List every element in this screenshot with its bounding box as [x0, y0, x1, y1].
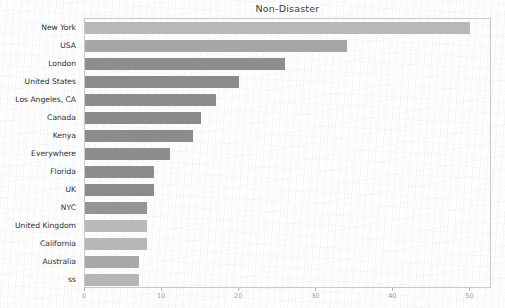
bar-row	[85, 274, 492, 286]
y-axis-tick-label: Canada	[47, 113, 76, 122]
x-axis-tick-mark	[161, 288, 162, 291]
bar-row	[85, 130, 492, 142]
bar	[85, 256, 139, 268]
bar-row	[85, 58, 492, 70]
y-axis-tick-label: London	[48, 59, 76, 68]
y-axis-tick-label: UK	[65, 185, 76, 194]
y-axis-tick-label: USA	[60, 41, 76, 50]
bar	[85, 238, 147, 250]
bar	[85, 184, 154, 196]
y-axis-tick-label: NYC	[61, 203, 76, 212]
y-axis-tick-label: ss	[68, 275, 76, 284]
bar-row	[85, 22, 492, 34]
y-axis-tick-label: Australia	[42, 257, 76, 266]
bar-row	[85, 184, 492, 196]
x-axis-tick-label: 40	[388, 292, 396, 300]
bar-row	[85, 166, 492, 178]
bar-row	[85, 94, 492, 106]
plot-area	[84, 18, 491, 288]
bar	[85, 40, 347, 52]
x-axis-tick-label: 20	[234, 292, 242, 300]
x-axis-tick-label: 30	[311, 292, 319, 300]
x-axis-tick-mark	[392, 288, 393, 291]
bar-row	[85, 40, 492, 52]
bar	[85, 76, 239, 88]
y-axis-tick-label: New York	[41, 23, 76, 32]
bar-row	[85, 76, 492, 88]
bar	[85, 202, 147, 214]
bar	[85, 148, 170, 160]
y-axis-tick-label: Everywhere	[31, 149, 76, 158]
x-axis-tick-mark	[238, 288, 239, 291]
bar-row	[85, 202, 492, 214]
y-axis-tick-label: United Kingdom	[15, 221, 76, 230]
x-axis-tick-label: 0	[82, 292, 86, 300]
bar-row	[85, 220, 492, 232]
chart-title: Non-Disaster	[84, 3, 491, 14]
x-axis-tick-mark	[469, 288, 470, 291]
bar-row	[85, 238, 492, 250]
bar	[85, 94, 216, 106]
bar	[85, 274, 139, 286]
bar	[85, 58, 285, 70]
x-axis-tick-mark	[315, 288, 316, 291]
y-axis-tick-label: California	[40, 239, 76, 248]
x-axis-ticks: 01020304050	[84, 288, 491, 306]
bar-row	[85, 148, 492, 160]
x-axis-tick-mark	[84, 288, 85, 291]
bar	[85, 220, 147, 232]
chart-figure: Non-Disaster New YorkUSALondonUnited Sta…	[0, 0, 505, 308]
bar	[85, 166, 154, 178]
y-axis-category-labels: New YorkUSALondonUnited StatesLos Angele…	[0, 18, 80, 288]
bar	[85, 130, 193, 142]
x-axis-tick-label: 10	[157, 292, 165, 300]
bar	[85, 112, 201, 124]
bar	[85, 22, 470, 34]
y-axis-tick-label: Los Angeles, CA	[15, 95, 76, 104]
y-axis-tick-label: United States	[25, 77, 76, 86]
x-axis-tick-label: 50	[465, 292, 473, 300]
y-axis-tick-label: Florida	[50, 167, 76, 176]
y-axis-tick-label: Kenya	[53, 131, 76, 140]
bar-row	[85, 256, 492, 268]
bar-row	[85, 112, 492, 124]
